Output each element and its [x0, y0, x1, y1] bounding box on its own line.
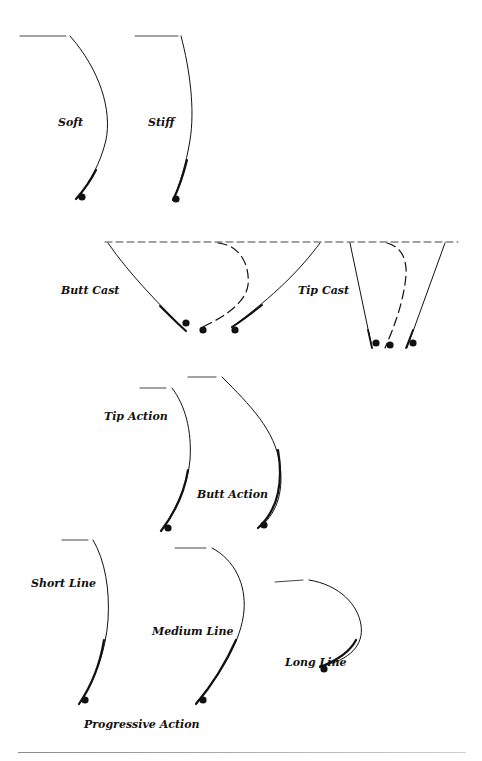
butt-cast-mid-position: [200, 243, 248, 328]
soft-rod-reel-icon: [78, 193, 85, 200]
label-butt-cast: Butt Cast: [61, 285, 119, 296]
label-stiff: Stiff: [148, 117, 174, 128]
short-line-butt: [79, 640, 104, 704]
label-short-line: Short Line: [31, 578, 96, 589]
soft-rod-butt: [76, 170, 96, 199]
long-line-curve: [309, 580, 361, 666]
butt-action-reel-icon: [260, 521, 267, 528]
medium-line-reel-icon: [199, 696, 206, 703]
butt-cast-back-position: [108, 243, 185, 330]
butt-cast-forward-butt: [232, 305, 262, 327]
tip-cast-reel-2-icon: [386, 341, 393, 348]
tip-cast-reel-3-icon: [409, 339, 416, 346]
short-line-reel-icon: [81, 696, 88, 703]
butt-action-rod: [188, 377, 281, 529]
label-soft: Soft: [58, 117, 83, 128]
butt-cast: [108, 243, 320, 334]
label-long-line: Long Line: [285, 657, 347, 668]
tip-cast-reel-1-icon: [372, 339, 379, 346]
tip-cast-mid-position: [385, 243, 406, 348]
short-line-curve: [80, 540, 108, 703]
butt-cast-reel-3-icon: [231, 326, 238, 333]
rod-action-diagram: [0, 0, 482, 761]
butt-cast-reel-2-icon: [199, 326, 206, 333]
tip-action-reel-icon: [164, 524, 171, 531]
long-line-line-reference: [275, 580, 303, 582]
tip-cast: [350, 243, 445, 349]
short-line-rod: [62, 540, 108, 704]
caption-progressive-action-visible: Progressive Action: [84, 719, 200, 730]
butt-cast-reel-1-icon: [182, 319, 189, 326]
stiff-rod-reel-icon: [172, 195, 179, 202]
butt-cast-back-butt: [160, 306, 186, 331]
label-medium-line: Medium Line: [152, 626, 233, 637]
label-butt-action: Butt Action: [197, 489, 268, 500]
butt-action-curve: [222, 377, 281, 527]
bottom-divider: [18, 752, 466, 753]
label-tip-cast: Tip Cast: [298, 285, 349, 296]
medium-line-butt: [196, 640, 236, 704]
label-tip-action: Tip Action: [104, 411, 168, 422]
tip-cast-back-butt: [368, 330, 372, 348]
tip-action-butt: [161, 470, 188, 531]
